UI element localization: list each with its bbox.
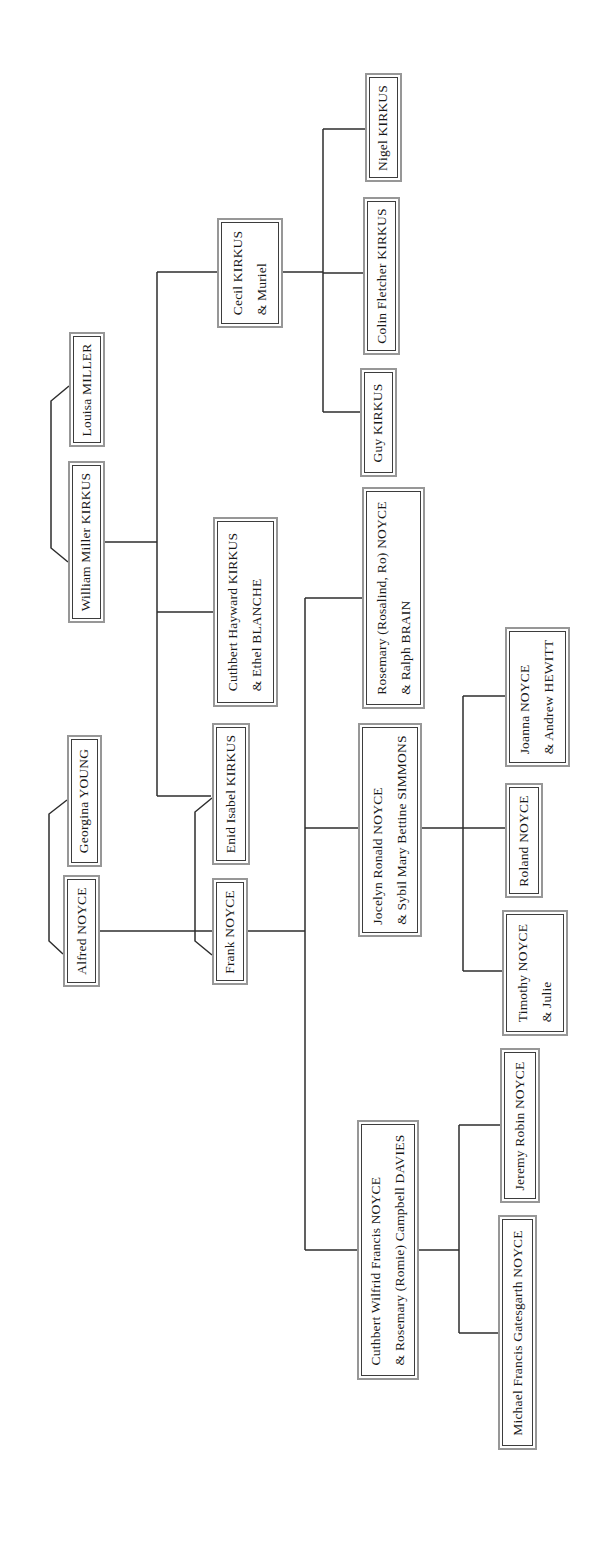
marriage-link-william-louisa	[51, 386, 69, 562]
person-box-inner: Alfred NOYCE	[67, 879, 96, 983]
person-box-inner: Jeremy Robin NOYCE	[504, 1052, 536, 1199]
person-name: Timothy NOYCE & Julie	[511, 924, 559, 1023]
person-name: Cuthbert Wilfrid Francis NOYCE & Rosemar…	[364, 1135, 412, 1366]
person-box-joanna-noyce: Joanna NOYCE & Andrew HEWITT	[505, 627, 570, 767]
person-name: Frank NOYCE	[218, 890, 242, 974]
person-name: Jocelyn Ronald NOYCE & Sybil Mary Bettin…	[366, 735, 414, 924]
person-box-inner: Jocelyn Ronald NOYCE & Sybil Mary Bettin…	[362, 727, 418, 933]
person-box-inner: Cecil KIRKUS & Muriel	[221, 222, 279, 324]
person-name: Michael Francis Gatesgarth NOYCE	[506, 1230, 530, 1435]
person-box-inner: Enid Isabel KIRKUS	[216, 727, 246, 861]
person-box-inner: Cuthbert Wilfrid Francis NOYCE & Rosemar…	[361, 1124, 415, 1376]
person-name: Guy KIRKUS	[367, 383, 391, 462]
person-box-michael-noyce: Michael Francis Gatesgarth NOYCE	[498, 1215, 537, 1450]
person-box-jocelyn-ronald-noyce: Jocelyn Ronald NOYCE & Sybil Mary Bettin…	[358, 723, 422, 937]
person-box-inner: Timothy NOYCE & Julie	[506, 914, 564, 1032]
person-box-enid-isabel-kirkus: Enid Isabel KIRKUS	[212, 723, 250, 865]
person-box-nigel-kirkus: Nigel KIRKUS	[365, 73, 402, 182]
person-box-inner: Michael Francis Gatesgarth NOYCE	[502, 1219, 533, 1446]
person-box-frank-noyce: Frank NOYCE	[212, 878, 248, 985]
descent-line-william-children	[105, 272, 217, 796]
person-box-inner: Frank NOYCE	[216, 882, 244, 981]
person-box-cuthbert-wilfrid-noyce: Cuthbert Wilfrid Francis NOYCE & Rosemar…	[357, 1120, 419, 1380]
person-box-colin-fletcher-kirkus: Colin Fletcher KIRKUS	[363, 197, 400, 355]
person-box-inner: Georgina YOUNG	[71, 739, 98, 863]
person-box-rosemary-noyce: Rosemary (Rosalind, Ro) NOYCE & Ralph BR…	[362, 487, 425, 709]
person-name: Roland NOYCE	[512, 795, 536, 886]
person-box-georgina-young: Georgina YOUNG	[67, 735, 102, 867]
person-box-louisa-miller: Louisa MILLER	[69, 332, 105, 447]
person-name: Colin Fletcher KIRKUS	[370, 208, 394, 343]
person-box-alfred-noyce: Alfred NOYCE	[63, 875, 100, 987]
person-name: William Miller KIRKUS	[75, 473, 99, 612]
person-box-roland-noyce: Roland NOYCE	[505, 783, 543, 898]
person-box-inner: Guy KIRKUS	[364, 372, 393, 473]
person-box-inner: Louisa MILLER	[73, 336, 101, 443]
person-box-inner: Cuthbert Hayward KIRKUS & Ethel BLANCHE	[217, 521, 274, 703]
descent-line-cuthbert-wilfrid-children	[419, 1125, 500, 1333]
person-box-guy-kirkus: Guy KIRKUS	[360, 368, 397, 477]
person-box-inner: Nigel KIRKUS	[369, 77, 398, 178]
family-tree-canvas: Louisa MILLERWilliam Miller KIRKUSGeorgi…	[0, 0, 609, 1555]
descent-line-jocelyn-children	[422, 696, 505, 971]
person-name: Joanna NOYCE & Andrew HEWITT	[514, 640, 562, 755]
person-name: Enid Isabel KIRKUS	[219, 735, 243, 853]
person-name: Cecil KIRKUS & Muriel	[226, 231, 274, 316]
person-name: Georgina YOUNG	[73, 749, 97, 853]
person-name: Jeremy Robin NOYCE	[508, 1061, 532, 1190]
person-name: Louisa MILLER	[75, 343, 99, 436]
person-box-timothy-noyce: Timothy NOYCE & Julie	[502, 910, 568, 1036]
person-box-cecil-kirkus: Cecil KIRKUS & Muriel	[217, 218, 283, 328]
person-box-jeremy-robin-noyce: Jeremy Robin NOYCE	[500, 1048, 540, 1203]
person-box-inner: William Miller KIRKUS	[72, 465, 101, 619]
person-box-inner: Joanna NOYCE & Andrew HEWITT	[509, 631, 566, 763]
person-box-inner: Colin Fletcher KIRKUS	[367, 201, 396, 351]
person-name: Nigel KIRKUS	[372, 84, 396, 170]
person-name: Rosemary (Rosalind, Ro) NOYCE & Ralph BR…	[370, 501, 418, 694]
person-box-william-miller-kirkus: William Miller KIRKUS	[68, 461, 105, 623]
person-name: Alfred NOYCE	[70, 887, 94, 975]
person-box-inner: Roland NOYCE	[509, 787, 539, 894]
person-name: Cuthbert Hayward KIRKUS & Ethel BLANCHE	[222, 533, 270, 691]
descent-line-cecil-children	[283, 129, 365, 412]
person-box-inner: Rosemary (Rosalind, Ro) NOYCE & Ralph BR…	[366, 491, 421, 705]
person-box-cuthbert-hayward-kirkus: Cuthbert Hayward KIRKUS & Ethel BLANCHE	[213, 517, 278, 707]
